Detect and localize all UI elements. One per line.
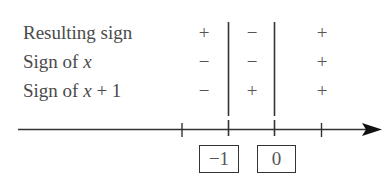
sign-chart: Resulting sign Sign of x Sign of x + 1 +… <box>0 0 392 186</box>
critical-point-minus-1: −1 <box>199 145 239 173</box>
critical-point-0: 0 <box>257 145 296 173</box>
number-line-graphic <box>0 0 392 186</box>
